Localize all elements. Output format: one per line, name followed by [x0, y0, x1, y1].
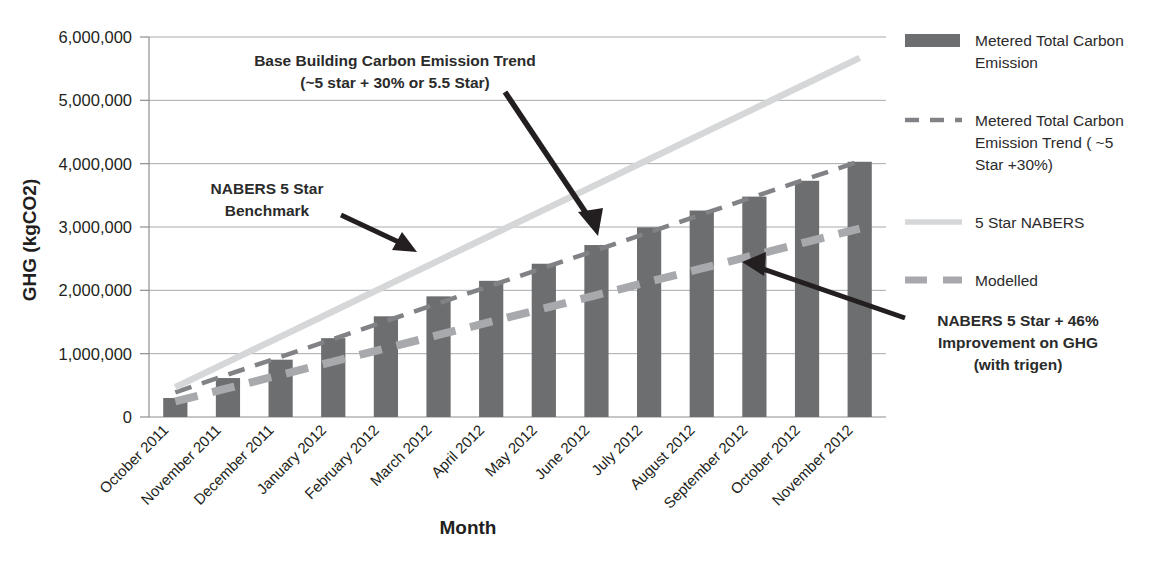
legend-item[interactable]: Modelled — [905, 272, 1038, 289]
annotation-nabers-benchmark-line-1: NABERS 5 Star — [211, 180, 324, 197]
bar — [321, 338, 345, 417]
y-axis-tick-label: 6,000,000 — [59, 28, 132, 46]
legend-item-label: Star +30%) — [975, 156, 1053, 173]
bar — [848, 162, 872, 417]
legend-item-label: Emission Trend ( ~5 — [975, 134, 1113, 151]
bar — [584, 245, 608, 417]
legend-item[interactable]: Metered Total CarbonEmission Trend ( ~5S… — [905, 112, 1124, 173]
bar — [742, 197, 766, 417]
x-axis-category-label: April 2012 — [428, 421, 488, 481]
bar — [426, 296, 450, 417]
annotation-nabers-improvement-line-3: (with trigen) — [974, 356, 1063, 373]
y-axis-tick-label: 4,000,000 — [59, 155, 132, 173]
legend-item-label: Metered Total Carbon — [975, 32, 1124, 49]
annotation-nabers-benchmark-arrow-icon — [341, 215, 417, 252]
y-axis-tick-labels: 6,000,0005,000,0004,000,0003,000,0002,00… — [59, 28, 132, 426]
legend-item-label: 5 Star NABERS — [975, 214, 1084, 231]
bar — [532, 264, 556, 417]
legend-item[interactable]: 5 Star NABERS — [905, 214, 1084, 231]
bar — [268, 360, 292, 417]
annotation-base-building-trend-line-1: Base Building Carbon Emission Trend — [254, 52, 536, 69]
y-axis-tick-label: 3,000,000 — [59, 218, 132, 236]
legend-item-label: Modelled — [975, 272, 1038, 289]
annotation-base-building-trend-line-2: (~5 star + 30% or 5.5 Star) — [300, 74, 490, 91]
legend-item-label: Metered Total Carbon — [975, 112, 1124, 129]
x-axis-title: Month — [440, 517, 497, 538]
legend-item-label: Emission — [975, 54, 1038, 71]
ghg-emissions-chart: 6,000,0005,000,0004,000,0003,000,0002,00… — [0, 0, 1150, 562]
legend-item[interactable]: Metered Total CarbonEmission — [905, 32, 1124, 71]
annotation-nabers-improvement-line-2: Improvement on GHG — [938, 334, 1098, 351]
chart-canvas: 6,000,0005,000,0004,000,0003,000,0002,00… — [0, 0, 1150, 562]
bar — [374, 316, 398, 417]
bar — [637, 227, 661, 417]
chart-legend: Metered Total CarbonEmissionMetered Tota… — [905, 32, 1124, 289]
bar — [795, 181, 819, 417]
y-axis-tick-label: 2,000,000 — [59, 281, 132, 299]
legend-swatch-icon — [905, 34, 960, 47]
y-axis-tick-label: 1,000,000 — [59, 345, 132, 363]
y-axis-tick-label: 5,000,000 — [59, 91, 132, 109]
annotation-nabers-benchmark: NABERS 5 Star Benchmark — [211, 180, 417, 252]
y-axis-ticks — [140, 37, 149, 417]
bar — [479, 281, 503, 417]
y-axis-title: GHG (kgCO2) — [19, 179, 40, 301]
bar — [216, 378, 240, 417]
y-axis-tick-label: 0 — [123, 408, 132, 426]
x-axis-category-labels: October 2011November 2011December 2011Ja… — [96, 421, 856, 511]
bar — [690, 211, 714, 417]
x-axis-category-label: June 2012 — [531, 421, 593, 483]
annotation-nabers-benchmark-line-2: Benchmark — [225, 202, 310, 219]
annotation-nabers-improvement-line-1: NABERS 5 Star + 46% — [937, 312, 1099, 329]
